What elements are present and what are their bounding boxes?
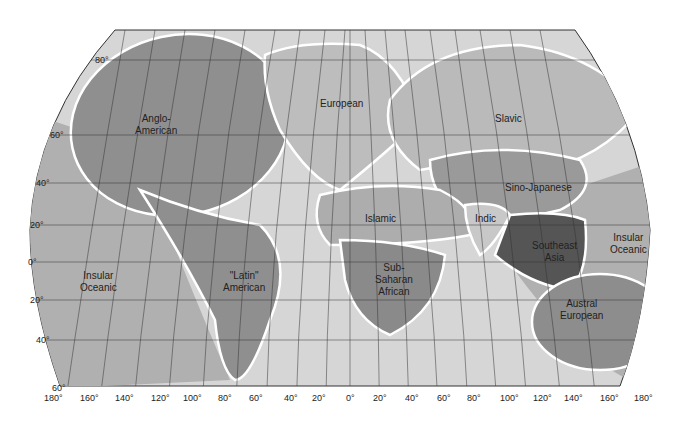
lon-tick: 20° bbox=[373, 393, 387, 403]
lon-tick: 80° bbox=[467, 393, 481, 403]
lon-tick: 120° bbox=[151, 393, 170, 403]
lon-tick: 40° bbox=[284, 393, 298, 403]
region-islamic bbox=[317, 186, 472, 245]
lon-tick: 20° bbox=[312, 393, 326, 403]
lon-tick: 80° bbox=[218, 393, 232, 403]
lat-tick: 40° bbox=[36, 335, 50, 345]
lon-tick: 140° bbox=[564, 393, 583, 403]
lon-tick: 160° bbox=[600, 393, 619, 403]
lat-tick: 60° bbox=[52, 383, 66, 393]
lon-tick: 40° bbox=[405, 393, 419, 403]
lon-tick: 140° bbox=[115, 393, 134, 403]
lon-tick: 160° bbox=[80, 393, 99, 403]
lat-tick: 40° bbox=[36, 178, 50, 188]
lat-tick: 60° bbox=[50, 130, 64, 140]
lat-tick: 20° bbox=[30, 220, 44, 230]
lon-tick: 60° bbox=[437, 393, 451, 403]
lon-tick: 100° bbox=[500, 393, 519, 403]
lat-tick: 20° bbox=[30, 295, 44, 305]
lon-tick: 180° bbox=[634, 393, 653, 403]
lat-tick: 80° bbox=[95, 55, 109, 65]
lon-tick: 60° bbox=[249, 393, 263, 403]
lon-tick: 120° bbox=[533, 393, 552, 403]
lat-tick: 0° bbox=[28, 257, 37, 267]
lon-tick: 100° bbox=[183, 393, 202, 403]
lon-tick: 180° bbox=[44, 393, 63, 403]
lon-tick: 0° bbox=[346, 393, 355, 403]
world-culture-realms-map bbox=[0, 0, 695, 439]
